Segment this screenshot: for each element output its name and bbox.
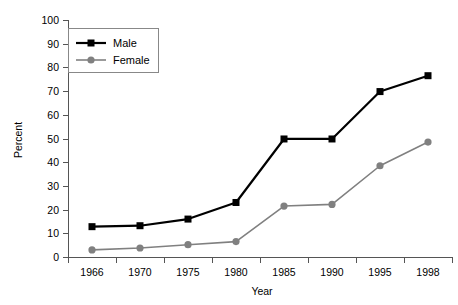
data-point-marker <box>425 72 432 79</box>
y-tick-label: 30 <box>47 180 59 192</box>
legend-circle-marker-icon <box>87 56 94 63</box>
x-tick-label: 1995 <box>368 266 392 278</box>
data-point-marker <box>376 162 383 169</box>
legend-square-marker-icon <box>88 40 95 47</box>
x-tick-label: 1980 <box>224 266 248 278</box>
y-tick-label: 60 <box>47 109 59 121</box>
chart-container: 0102030405060708090100 19661970197519801… <box>0 0 458 305</box>
x-tick-label: 1998 <box>416 266 440 278</box>
x-tick-label: 1985 <box>272 266 296 278</box>
x-tick-label: 1975 <box>176 266 200 278</box>
series-female <box>88 138 431 253</box>
y-tick-labels: 0102030405060708090100 <box>41 14 59 263</box>
data-point-marker <box>184 241 191 248</box>
data-point-marker <box>329 135 336 142</box>
data-point-marker <box>232 238 239 245</box>
line-chart: 0102030405060708090100 19661970197519801… <box>0 0 458 305</box>
y-tick-label: 10 <box>47 227 59 239</box>
legend-label: Male <box>113 37 137 49</box>
y-tick-label: 50 <box>47 133 59 145</box>
data-point-marker <box>88 246 95 253</box>
y-tick-label: 100 <box>41 14 59 26</box>
y-tick-label: 70 <box>47 85 59 97</box>
x-tick-label: 1990 <box>320 266 344 278</box>
data-point-marker <box>377 88 384 95</box>
series-line <box>92 142 428 250</box>
x-tick-label: 1966 <box>80 266 104 278</box>
series-male <box>89 72 432 230</box>
data-point-marker <box>424 138 431 145</box>
data-point-marker <box>89 223 96 230</box>
y-tick-label: 90 <box>47 38 59 50</box>
data-point-marker <box>185 216 192 223</box>
y-axis-title: Percent <box>12 122 24 158</box>
data-point-marker <box>136 244 143 251</box>
y-tick-label: 0 <box>53 251 59 263</box>
legend-label: Female <box>113 54 150 66</box>
x-tick-labels: 19661970197519801985199019951998 <box>80 266 440 278</box>
data-point-marker <box>280 202 287 209</box>
data-point-marker <box>233 199 240 206</box>
y-tick-label: 80 <box>47 61 59 73</box>
x-tick-label: 1970 <box>128 266 152 278</box>
y-tick-label: 20 <box>47 204 59 216</box>
data-point-marker <box>137 222 144 229</box>
x-axis-title: Year <box>251 285 273 297</box>
data-point-marker <box>281 135 288 142</box>
y-tick-label: 40 <box>47 156 59 168</box>
chart-legend: MaleFemale <box>69 29 159 73</box>
data-series-layer <box>88 72 431 253</box>
series-line <box>92 76 428 227</box>
data-point-marker <box>328 201 335 208</box>
